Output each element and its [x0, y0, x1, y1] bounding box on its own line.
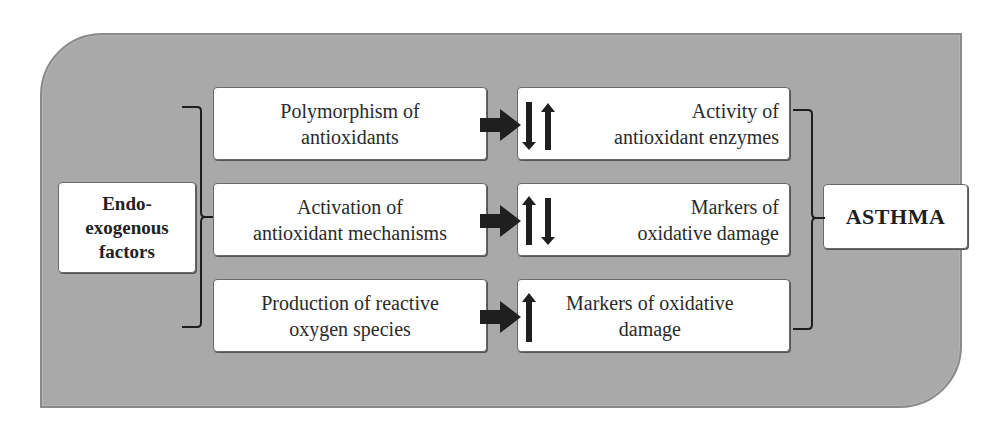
effect-0-line-1: Activity of [614, 98, 779, 124]
source-line-2: exogenous [85, 216, 168, 240]
asthma-outcome-box: ASTHMA [823, 184, 968, 249]
effect-box-oxidative-markers: Markers of oxidative damage [517, 183, 790, 256]
mechanism-2-line-1: Production of reactive [261, 290, 439, 316]
effect-2-line-1: Markers of oxidative [566, 290, 734, 316]
mechanism-0-line-2: antioxidants [280, 124, 419, 150]
mechanism-1-line-2: antioxidant mechanisms [253, 220, 447, 246]
effect-1-line-2: oxidative damage [637, 220, 779, 246]
mechanism-box-polymorphism: Polymorphism of antioxidants [213, 87, 487, 160]
mechanism-box-ros-production: Production of reactive oxygen species [213, 279, 487, 352]
effect-box-oxidative-damage: Markers of oxidative damage [517, 279, 790, 352]
mechanism-0-line-1: Polymorphism of [280, 98, 419, 124]
source-line-3: factors [85, 240, 168, 264]
mechanism-1-line-1: Activation of [253, 194, 447, 220]
source-line-1: Endo- [85, 192, 168, 216]
endo-exogenous-factors-box: Endo- exogenous factors [58, 182, 196, 273]
mechanism-box-activation: Activation of antioxidant mechanisms [213, 183, 487, 256]
effect-0-line-2: antioxidant enzymes [614, 124, 779, 150]
effect-1-line-1: Markers of [637, 194, 779, 220]
effect-2-line-2: damage [566, 316, 734, 342]
mechanism-2-line-2: oxygen species [261, 316, 439, 342]
outcome-label: ASTHMA [846, 204, 946, 230]
effect-box-antioxidant-enzymes: Activity of antioxidant enzymes [517, 87, 790, 160]
